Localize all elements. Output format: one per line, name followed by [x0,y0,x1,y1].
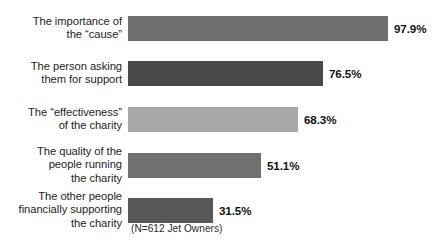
category-label: The quality of the people running the ch… [0,145,128,185]
sample-size-note: (N=612 Jet Owners) [131,223,222,234]
bar-value-label: 51.1% [267,159,299,172]
chart-row: The other people financially supporting … [0,187,445,233]
category-label: The person asking them for support [0,60,128,86]
category-label: The other people financially supporting … [0,190,128,230]
chart-row: The importance of the “cause” 97.9% [0,8,445,48]
bar-value-label: 31.5% [219,204,251,217]
bar-track: 51.1% [128,142,445,188]
bar-track: 76.5% [128,53,445,93]
bar-value [128,198,213,223]
bar-value-label: 97.9% [394,22,426,35]
bar-track: 97.9% [128,8,445,48]
bar-value [128,61,323,86]
category-label: The importance of the “cause” [0,15,128,41]
bar-value-label: 68.3% [304,113,336,126]
bar-value [128,153,261,178]
chart-row: The “effectiveness” of the charity 68.3% [0,99,445,139]
chart-row: The quality of the people running the ch… [0,142,445,188]
horizontal-bar-chart: The importance of the “cause” 97.9% The … [0,0,445,248]
bar-value [128,107,298,132]
bar-value [128,16,388,41]
bar-value-label: 76.5% [329,67,361,80]
bar-track: 68.3% [128,99,445,139]
chart-row: The person asking them for support 76.5% [0,53,445,93]
category-label: The “effectiveness” of the charity [0,106,128,132]
